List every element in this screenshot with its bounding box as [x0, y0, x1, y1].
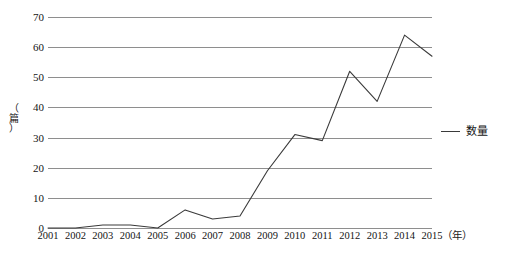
- x-tick-2002: 2002: [65, 231, 86, 242]
- plot-area: [48, 17, 432, 228]
- legend: 数量: [441, 126, 488, 137]
- x-tick-2005: 2005: [147, 231, 168, 242]
- y-axis-tick-labels: 010203040506070: [0, 17, 44, 228]
- x-tick-2003: 2003: [92, 231, 113, 242]
- x-tick-2009: 2009: [257, 231, 278, 242]
- x-tick-2010: 2010: [284, 231, 305, 242]
- x-tick-2008: 2008: [230, 231, 251, 242]
- series-line-shuliang: [48, 17, 432, 228]
- x-tick-2001: 2001: [38, 231, 59, 242]
- gridline-0: [48, 228, 432, 229]
- x-tick-2007: 2007: [202, 231, 223, 242]
- legend-line-swatch: [441, 131, 460, 132]
- x-tick-2012: 2012: [339, 231, 360, 242]
- x-tick-2014: 2014: [394, 231, 415, 242]
- y-tick-20: 20: [33, 162, 44, 173]
- x-axis-tick-labels: 2001200220032004200520062007200820092010…: [48, 231, 432, 247]
- y-tick-70: 70: [33, 12, 44, 23]
- x-tick-2004: 2004: [120, 231, 141, 242]
- x-tick-2013: 2013: [367, 231, 388, 242]
- x-axis-title: （年）: [442, 231, 472, 242]
- y-tick-10: 10: [33, 192, 44, 203]
- y-tick-50: 50: [33, 72, 44, 83]
- x-tick-2006: 2006: [175, 231, 196, 242]
- y-tick-30: 30: [33, 132, 44, 143]
- x-tick-2011: 2011: [312, 231, 333, 242]
- line-chart: （ 篇 ） 010203040506070 200120022003200420…: [0, 0, 508, 261]
- legend-label-shuliang: 数量: [466, 126, 488, 137]
- y-tick-40: 40: [33, 102, 44, 113]
- x-tick-2015: 2015: [422, 231, 443, 242]
- y-tick-60: 60: [33, 42, 44, 53]
